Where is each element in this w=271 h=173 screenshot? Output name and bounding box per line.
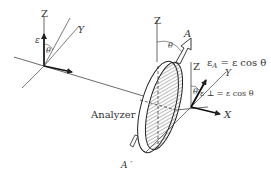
analyzer-label: Analyzer bbox=[90, 109, 136, 120]
left-analyzer-direction bbox=[44, 18, 70, 66]
analyzer-z-label: Z bbox=[154, 15, 161, 26]
left-x-arrow bbox=[44, 66, 72, 72]
equation-bottom: ε ⊥ = ε cos θ bbox=[200, 89, 254, 98]
analyzer-disk: Z A θ Analyzer A ′ bbox=[90, 15, 191, 170]
equation-top: εA = ε cos θ bbox=[207, 57, 266, 70]
right-z-label: Z bbox=[193, 61, 200, 72]
beam-axis-line bbox=[14, 57, 150, 98]
left-field-label: ε bbox=[35, 35, 40, 45]
polarization-analyzer-diagram: Z Y ε θ Z A θ Analyzer A ′ Z Y X θ ε bbox=[0, 0, 271, 173]
analyzer-a-prime-handle bbox=[130, 135, 138, 147]
right-y-label: Y bbox=[225, 68, 232, 78]
analyzer-a-prime-label: A ′ bbox=[120, 160, 132, 170]
right-x-label: X bbox=[223, 109, 232, 120]
diagram-canvas: Z Y ε θ Z A θ Analyzer A ′ Z Y X θ ε bbox=[0, 0, 271, 173]
left-axes: Z Y ε θ bbox=[22, 8, 85, 88]
left-y-label: Y bbox=[78, 25, 85, 35]
right-x-arrow bbox=[191, 107, 220, 114]
right-theta-label: θ bbox=[193, 87, 198, 96]
analyzer-a-axis-arrow bbox=[176, 38, 191, 64]
left-lower-axis bbox=[22, 66, 44, 88]
left-theta-label: θ bbox=[46, 46, 51, 55]
left-z-label: Z bbox=[41, 8, 48, 19]
analyzer-a-label: A bbox=[183, 28, 191, 39]
analyzer-theta-label: θ bbox=[168, 41, 173, 50]
